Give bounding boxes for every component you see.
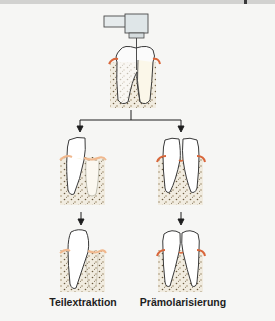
label-praemolarisierung: Prämolarisierung <box>133 296 233 308</box>
arrow-down-left-icon <box>77 126 83 132</box>
left-step2-tooth <box>60 230 106 292</box>
arrow-down-icon <box>78 219 84 225</box>
right-arrow-2 <box>178 212 184 225</box>
top-molar-group <box>104 14 160 108</box>
left-step1-tooth <box>60 137 106 205</box>
arrow-down-icon <box>178 219 184 225</box>
dental-diagram <box>0 0 275 321</box>
label-teilextraktion: Teilextraktion <box>38 296 128 308</box>
right-step2-tooth <box>157 231 205 292</box>
arrow-down-right-icon <box>178 126 184 132</box>
right-step1-tooth <box>157 138 205 205</box>
left-arrow-2 <box>78 212 84 225</box>
handpiece-icon <box>104 14 148 48</box>
branch-arrows <box>77 110 184 132</box>
